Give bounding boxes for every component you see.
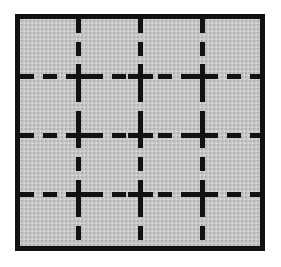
grid-cross-r3-c1 <box>66 182 91 207</box>
cross-arm-vertical <box>200 182 205 207</box>
grid-cross-r1-c1 <box>66 64 91 89</box>
cross-arm-vertical <box>138 123 143 148</box>
figure-root <box>0 0 281 267</box>
cross-arm-vertical <box>200 64 205 89</box>
grid-cross-r1-c2 <box>128 64 153 89</box>
grid-cross-r3-c3 <box>190 182 215 207</box>
outer-square-frame <box>15 14 265 251</box>
cross-arm-vertical <box>76 182 81 207</box>
grid-cross-r1-c3 <box>190 64 215 89</box>
cross-arm-vertical <box>76 123 81 148</box>
cross-arm-vertical <box>200 123 205 148</box>
cross-arm-vertical <box>138 182 143 207</box>
grid-cross-r3-c2 <box>128 182 153 207</box>
grid-cross-r2-c3 <box>190 123 215 148</box>
grid-cross-r2-c2 <box>128 123 153 148</box>
grid-cross-r2-c1 <box>66 123 91 148</box>
cross-arm-vertical <box>138 64 143 89</box>
cross-arm-vertical <box>76 64 81 89</box>
